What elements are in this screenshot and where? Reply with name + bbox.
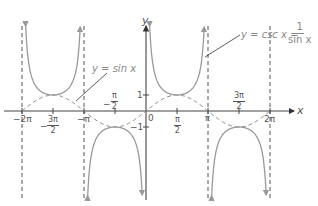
x-tick-neg-2pi: −2π <box>13 115 32 124</box>
csc-branch <box>26 26 80 95</box>
x-tick-neg-pi: −π <box>77 115 90 124</box>
x-tick-3pi-2: 3π 2 <box>233 92 245 111</box>
csc-branch <box>150 26 205 95</box>
sin-leader-line <box>76 73 107 101</box>
x-tick-neg-pi-2: π 2 <box>111 92 118 111</box>
x-axis-label: x <box>297 105 304 116</box>
y-tick-1-label: 1 <box>137 91 143 100</box>
origin-label: 0 <box>148 114 154 123</box>
minus-sign: − <box>103 99 111 109</box>
x-tick-2pi: 2π <box>264 115 275 124</box>
y-tick-minus1-label: −1 <box>130 123 143 132</box>
sin-equation-label: y = sin x <box>92 64 136 74</box>
x-tick-pi-2: π 2 <box>174 116 181 135</box>
x-tick-neg-3pi-2: 3π 2 <box>47 116 59 135</box>
x-tick-pi: π <box>205 115 210 123</box>
csc-branch <box>88 127 143 196</box>
csc-branch <box>212 127 267 196</box>
csc-leader-line <box>205 35 240 57</box>
y-axis-label: y <box>142 15 149 26</box>
csc-fraction: 1 sin x <box>288 22 311 45</box>
